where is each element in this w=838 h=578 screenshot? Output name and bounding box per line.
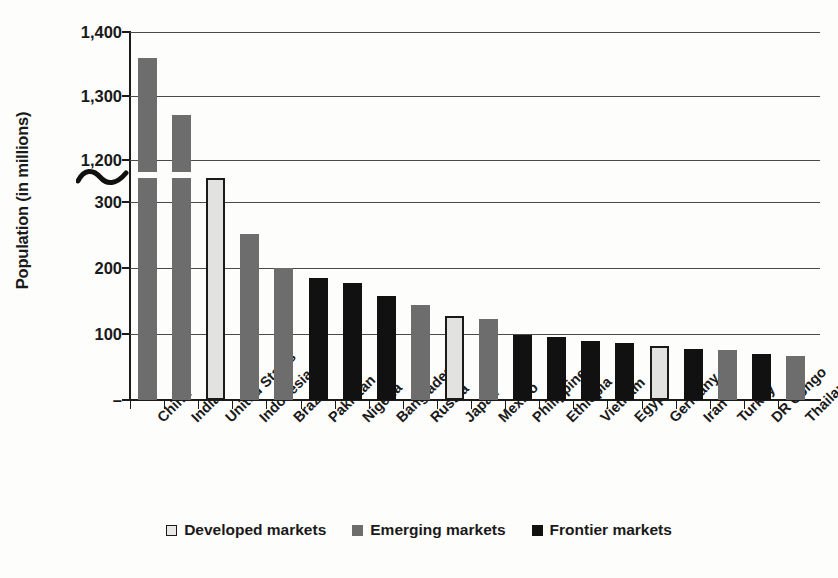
legend-swatch-frontier-icon [532,525,543,536]
chart-legend: Developed marketsEmerging marketsFrontie… [0,521,838,539]
y-axis-tick-label: 100 [94,325,122,344]
x-axis-tick-mark [573,400,574,409]
gridline [130,334,820,335]
axis-break-squiggle-icon [76,164,132,192]
bar-nigeria [343,283,362,400]
gridline [130,32,820,33]
x-axis-tick-mark [198,400,199,409]
bar-thailand [786,356,805,400]
bar-pakistan [309,278,328,400]
legend-item-emerging: Emerging markets [352,521,505,539]
bar-russia [411,305,430,400]
bar-iran [684,349,703,400]
y-axis-tick-label: 1,300 [81,87,122,106]
x-axis-tick-mark [710,400,711,409]
x-axis-tick-mark [130,400,131,409]
bar-ethiopia [547,337,566,400]
y-axis-tick-label: 300 [94,193,122,212]
x-axis-tick-mark [607,400,608,409]
bar-philippines [513,335,532,400]
x-axis-tick-mark [232,400,233,409]
bar-brazil [274,268,293,400]
x-axis-tick-mark [335,400,336,409]
bar-united-states-lower-segment [206,178,225,400]
bar-india [172,115,191,172]
legend-label: Developed markets [184,521,326,539]
population-bar-chart: Population (in millions) –1002003001,200… [0,0,838,578]
x-axis-tick-mark [266,400,267,409]
x-axis-tick-mark [505,400,506,409]
bar-turkey [718,350,737,400]
bar-mexico [479,319,498,400]
x-axis-tick-mark [164,400,165,409]
bar-egypt [615,343,634,400]
gridline [130,160,820,161]
bar-vietnam [581,341,600,400]
x-axis-tick-mark [471,400,472,409]
gridline [130,96,820,97]
bar-germany [650,346,669,400]
bar-bangladesh [377,296,396,400]
x-axis-tick-mark [403,400,404,409]
legend-swatch-emerging-icon [352,525,363,536]
legend-label: Emerging markets [370,521,505,539]
legend-swatch-developed-icon [166,525,177,536]
bar-indonesia [240,234,259,400]
y-axis-tick-label: 1,400 [81,23,122,42]
x-axis-tick-mark [642,400,643,409]
x-axis-tick-mark [301,400,302,409]
bar-japan [445,316,464,400]
x-axis-tick-mark [539,400,540,409]
gridline [130,268,820,269]
bar-china-lower-segment [138,178,157,400]
x-axis-tick-mark [369,400,370,409]
bar-china [138,58,157,172]
legend-item-frontier: Frontier markets [532,521,672,539]
gridline [130,202,820,203]
legend-item-developed: Developed markets [166,521,326,539]
legend-label: Frontier markets [550,521,672,539]
x-axis-tick-mark [676,400,677,409]
x-axis-tick-mark [778,400,779,409]
plot-area [130,32,820,400]
y-axis-tick-label: 200 [94,259,122,278]
bar-dr-congo [752,354,771,400]
y-axis-ticks: –1002003001,2001,3001,400 [0,0,122,410]
x-axis-tick-mark [437,400,438,409]
x-axis-labels: ChinaIndiaUnited StatesIndonesiaBrazilPa… [0,400,838,510]
bar-india-lower-segment [172,178,191,400]
x-axis-tick-mark [744,400,745,409]
